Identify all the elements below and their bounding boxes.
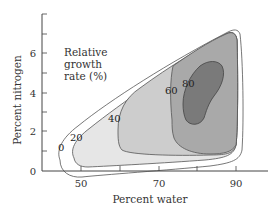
- y-tick-label-2: 2: [30, 126, 36, 137]
- contour-label-60: 60: [165, 85, 178, 96]
- contour-label-0: 0: [58, 142, 64, 153]
- contour-chart: 0 2 4 6 50 70 90 Percent water Percent n…: [0, 0, 280, 210]
- annotation-line-2: growth: [64, 58, 102, 70]
- x-axis-title: Percent water: [113, 193, 189, 205]
- x-tick-label-70: 70: [153, 178, 166, 189]
- contour-label-80: 80: [182, 78, 195, 89]
- x-tick-label-90: 90: [230, 178, 243, 189]
- annotation-line-3: rate (%): [64, 70, 107, 82]
- contour-label-20: 20: [70, 132, 83, 143]
- y-tick-label-6: 6: [30, 48, 36, 59]
- y-tick-label-4: 4: [30, 88, 36, 99]
- annotation-line-1: Relative: [64, 46, 107, 58]
- x-tick-label-50: 50: [75, 178, 88, 189]
- y-ticks: [42, 34, 47, 151]
- y-tick-label-0: 0: [30, 166, 36, 177]
- contour-label-40: 40: [108, 113, 121, 124]
- y-axis-title: Percent nitrogen: [11, 55, 23, 145]
